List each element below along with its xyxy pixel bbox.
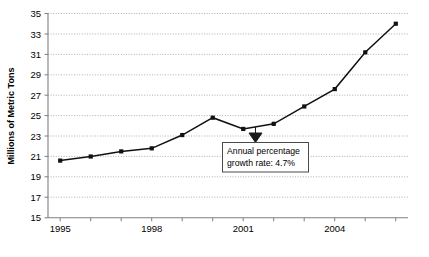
data-point	[180, 133, 184, 137]
y-tick-label: 27	[30, 90, 41, 101]
data-point	[333, 87, 337, 91]
y-axis-title: Millions of Metric Tons	[6, 68, 16, 165]
data-point	[119, 149, 123, 153]
y-tick-labels: 35 33 31 29 27 25 23 21 19 17 15	[30, 8, 41, 223]
y-tick-label: 35	[30, 8, 41, 19]
y-tick-label: 15	[30, 212, 41, 223]
data-point	[211, 116, 215, 120]
data-point	[363, 50, 367, 54]
y-tick-label: 19	[30, 171, 41, 182]
data-point	[241, 127, 245, 131]
data-point	[394, 22, 398, 26]
data-point	[150, 146, 154, 150]
y-tick-label: 23	[30, 131, 41, 142]
line-chart: 35 33 31 29 27 25 23 21 19 17 15 Million…	[0, 0, 429, 257]
y-tick-label: 33	[30, 29, 41, 40]
x-tick-label: 2001	[233, 223, 254, 234]
callout-line-1: Annual percentage	[227, 146, 300, 156]
y-tick-label: 21	[30, 151, 41, 162]
data-point	[89, 154, 93, 158]
x-tick-label: 2004	[324, 223, 345, 234]
chart-canvas: 35 33 31 29 27 25 23 21 19 17 15 Million…	[0, 0, 429, 257]
y-tick-label: 17	[30, 192, 41, 203]
data-point	[272, 122, 276, 126]
y-tick-label: 31	[30, 49, 41, 60]
y-tick-label: 25	[30, 110, 41, 121]
data-point	[302, 104, 306, 108]
x-tick-labels: 1995 1998 2001 2004	[50, 223, 346, 234]
callout-line-2: growth rate: 4.7%	[227, 158, 295, 168]
y-tick-label: 29	[30, 69, 41, 80]
x-tick-label: 1995	[50, 223, 71, 234]
data-point	[58, 159, 62, 163]
x-tick-label: 1998	[141, 223, 162, 234]
